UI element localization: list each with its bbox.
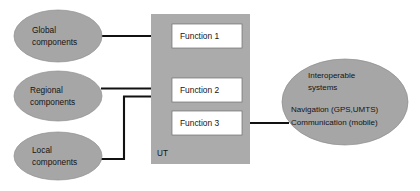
diagram-svg: Function 1 Function 2 Function 3 UT Glob… <box>0 0 420 191</box>
node-regional-components[interactable]: Regional components <box>14 71 102 121</box>
interoperable-detail-navigation: Navigation (GPS,UMTS) <box>291 105 378 114</box>
function-box-1-label: Function 1 <box>180 31 219 41</box>
node-interoperable-systems[interactable]: Interoperable systems Navigation (GPS,UM… <box>282 59 408 145</box>
function-box-1[interactable]: Function 1 <box>172 24 242 48</box>
regional-components-ellipse <box>14 71 102 121</box>
global-components-ellipse <box>14 10 102 62</box>
interoperable-title-line2: systems <box>308 83 337 92</box>
ut-panel-label: UT <box>157 149 168 158</box>
node-local-components[interactable]: Local components <box>14 132 102 180</box>
global-components-label-line2: components <box>32 37 77 47</box>
node-global-components[interactable]: Global components <box>14 10 102 62</box>
regional-components-label-line2: components <box>30 97 75 107</box>
function-box-3[interactable]: Function 3 <box>172 111 242 135</box>
local-components-ellipse <box>14 132 102 180</box>
regional-components-label-line1: Regional <box>30 85 63 95</box>
function-box-2-label: Function 2 <box>180 85 219 95</box>
local-components-label-line2: components <box>32 157 77 167</box>
interoperable-detail-communication: Communication (mobile) <box>291 118 378 127</box>
function-box-2[interactable]: Function 2 <box>172 78 242 102</box>
interoperable-title-line1: Interoperable <box>308 71 356 80</box>
ut-panel: Function 1 Function 2 Function 3 UT <box>151 14 250 164</box>
function-box-3-label: Function 3 <box>180 118 219 128</box>
local-components-label-line1: Local <box>32 145 52 155</box>
global-components-label-line1: Global <box>32 25 56 35</box>
diagram-canvas: Function 1 Function 2 Function 3 UT Glob… <box>0 0 420 191</box>
